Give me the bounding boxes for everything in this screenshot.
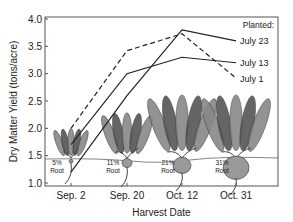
- y-tick-label: 4.0: [28, 14, 42, 25]
- y-tick-label: 3.0: [28, 68, 42, 79]
- beet-root: [122, 159, 132, 168]
- root-percent-label: Root: [106, 167, 120, 174]
- yield-chart: 5%Root11%Root21%Root31%Root1.01.52.02.53…: [0, 0, 293, 222]
- root-percent-label: 31%: [215, 159, 228, 166]
- legend-label: July 1: [240, 74, 264, 84]
- y-tick-label: 3.5: [28, 41, 42, 52]
- root-percent-label: 21%: [161, 159, 174, 166]
- y-axis-label: Dry Matter Yield (tons/acre): [8, 41, 19, 163]
- beet-root: [69, 159, 73, 163]
- root-percent-label: Root: [215, 167, 229, 174]
- root-percent-label: 5%: [52, 159, 62, 166]
- root-percent-label: Root: [50, 167, 64, 174]
- beet-plant-illustration: [197, 95, 274, 195]
- x-tick-label: Oct. 12: [166, 190, 199, 201]
- beet-plant-illustration: [52, 128, 91, 184]
- legend-label: July 23: [240, 36, 269, 46]
- x-tick-label: Sep. 2: [57, 190, 86, 201]
- beet-taproot: [65, 163, 71, 184]
- root-percent-label: Root: [161, 167, 175, 174]
- y-tick-label: 1.0: [28, 178, 42, 189]
- beet-taproot: [176, 173, 182, 191]
- y-tick-label: 2.5: [28, 96, 42, 107]
- y-tick-label: 2.0: [28, 123, 42, 134]
- x-tick-label: Sep. 20: [110, 190, 145, 201]
- beet-root: [173, 157, 191, 173]
- x-axis-label: Harvest Date: [132, 207, 191, 218]
- root-percent-label: 11%: [107, 159, 120, 166]
- beet-taproot: [121, 167, 127, 187]
- legend-title: Planted:: [243, 20, 274, 30]
- x-tick-label: Oct. 31: [220, 190, 253, 201]
- legend-label: July 13: [240, 58, 269, 68]
- y-tick-label: 1.5: [28, 150, 42, 161]
